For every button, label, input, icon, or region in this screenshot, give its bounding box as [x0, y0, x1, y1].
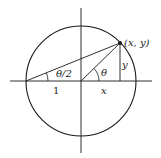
point-marker	[118, 41, 122, 45]
diagram-canvas: (x, y) θ θ/2 1 x y	[0, 0, 161, 158]
y-label: y	[121, 59, 128, 70]
theta-label: θ	[101, 67, 107, 78]
theta-arc	[94, 68, 99, 81]
x-label: x	[101, 85, 107, 96]
half-theta-label: θ/2	[56, 68, 72, 79]
one-label: 1	[53, 85, 59, 96]
unit-circle-diagram: (x, y) θ θ/2 1 x y	[0, 0, 161, 158]
half-theta-arc	[46, 73, 48, 81]
point-label: (x, y)	[124, 37, 150, 48]
